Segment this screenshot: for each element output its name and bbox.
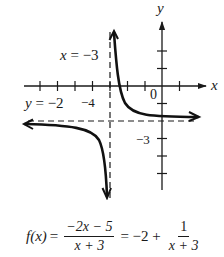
y-tick-label-neg3: −3 <box>136 133 150 146</box>
vertical-asymptote-var: x <box>60 47 67 63</box>
vertical-asymptote-label: x = −3 <box>60 48 99 63</box>
fraction-remainder: 1 x + 3 <box>167 219 201 254</box>
origin-label: 0 <box>150 88 157 102</box>
fraction-denominator: x + 3 <box>167 237 201 254</box>
curve-right-branch <box>114 33 198 117</box>
y-axis-label: y <box>157 1 164 16</box>
fraction-numerator: 1 <box>178 219 189 237</box>
formula-equals: = <box>50 228 58 245</box>
formula-lhs: f(x) <box>26 228 47 245</box>
horizontal-asymptote-label: y = −2 <box>25 96 64 111</box>
fraction-numerator: −2x − 5 <box>64 219 114 237</box>
formula-equals-decomposed: = −2 + <box>120 228 160 245</box>
horizontal-asymptote-value: = −2 <box>35 95 63 111</box>
fraction-denominator: x + 3 <box>73 237 107 254</box>
fraction-rational: −2x − 5 x + 3 <box>64 219 114 254</box>
x-axis-label: x <box>211 78 218 93</box>
x-tick-label-neg4: −4 <box>81 96 95 109</box>
vertical-asymptote-value: = −3 <box>70 47 98 63</box>
function-formula: f(x) = −2x − 5 x + 3 = −2 + 1 x + 3 <box>26 216 203 256</box>
horizontal-asymptote-var: y <box>25 95 32 111</box>
curve-left-branch <box>25 124 107 196</box>
